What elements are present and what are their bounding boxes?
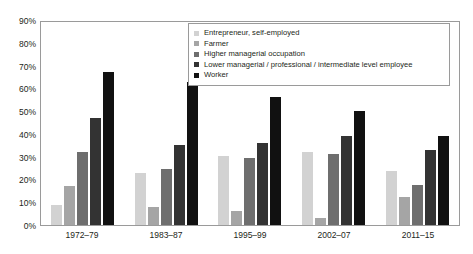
y-axis-tick-label: 30%: [0, 153, 36, 162]
bar: [77, 152, 88, 225]
x-axis-tick-label: 1983–87: [124, 231, 208, 247]
bar-slot: [135, 22, 146, 225]
bar: [425, 150, 436, 225]
bar-slot: [77, 22, 88, 225]
bar: [174, 145, 185, 225]
y-axis-tick-label: 50%: [0, 108, 36, 117]
bar: [341, 136, 352, 225]
bar: [257, 143, 268, 225]
y-axis-tick-label: 60%: [0, 85, 36, 94]
x-axis: 1972–791983–871995–992002–072011–15: [40, 231, 460, 247]
x-axis-tick-label: 1972–79: [40, 231, 124, 247]
bar-chart: 90%80%70%60%50%40%30%20%10%0% 1972–79198…: [0, 0, 473, 254]
y-axis-tick-label: 40%: [0, 131, 36, 140]
y-axis-tick-label: 90%: [0, 17, 36, 26]
bar: [51, 205, 62, 226]
legend-swatch-icon: [194, 62, 199, 67]
bar: [231, 211, 242, 225]
bar-slot: [174, 22, 185, 225]
legend-swatch-icon: [194, 52, 199, 57]
x-axis-tick-label: 2011–15: [376, 231, 460, 247]
bar-slot: [148, 22, 159, 225]
y-axis-tick-label: 0%: [0, 222, 36, 231]
legend-swatch-icon: [194, 31, 199, 36]
bar-slot: [103, 22, 114, 225]
y-axis-tick-label: 80%: [0, 40, 36, 49]
legend-label: Worker: [204, 71, 228, 79]
bar-group: [41, 22, 125, 225]
bar: [438, 136, 449, 225]
x-axis-tick-label: 1995–99: [208, 231, 292, 247]
legend-label: Farmer: [204, 40, 228, 48]
bar: [244, 158, 255, 225]
bar: [328, 154, 339, 225]
legend-item[interactable]: Worker: [194, 70, 443, 81]
legend-item[interactable]: Lower managerial / professional / interm…: [194, 60, 443, 71]
legend-label: Lower managerial / professional / interm…: [204, 61, 413, 69]
bar: [187, 82, 198, 226]
y-axis-tick-label: 70%: [0, 62, 36, 71]
legend-item[interactable]: Higher managerial occupation: [194, 49, 443, 60]
bar: [386, 171, 397, 225]
bar-slot: [161, 22, 172, 225]
bar: [315, 218, 326, 225]
bar: [103, 72, 114, 225]
bar: [135, 173, 146, 225]
bar: [218, 156, 229, 225]
bar: [64, 186, 75, 225]
x-axis-tick-label: 2002–07: [292, 231, 376, 247]
y-axis: 90%80%70%60%50%40%30%20%10%0%: [0, 21, 36, 226]
legend: Entrepreneur, self-employedFarmerHigher …: [188, 23, 450, 86]
bar: [302, 152, 313, 225]
bar: [90, 118, 101, 225]
legend-label: Higher managerial occupation: [204, 50, 305, 58]
bar: [270, 97, 281, 225]
bar-slot: [51, 22, 62, 225]
bar: [161, 169, 172, 225]
legend-item[interactable]: Farmer: [194, 39, 443, 50]
legend-label: Entrepreneur, self-employed: [204, 29, 299, 37]
bar: [412, 185, 423, 225]
y-axis-tick-label: 10%: [0, 199, 36, 208]
legend-swatch-icon: [194, 73, 199, 78]
legend-item[interactable]: Entrepreneur, self-employed: [194, 28, 443, 39]
bar-slot: [64, 22, 75, 225]
bar: [399, 197, 410, 225]
y-axis-tick-label: 20%: [0, 176, 36, 185]
bar: [354, 111, 365, 225]
bar-slot: [90, 22, 101, 225]
bar: [148, 207, 159, 225]
legend-swatch-icon: [194, 41, 199, 46]
